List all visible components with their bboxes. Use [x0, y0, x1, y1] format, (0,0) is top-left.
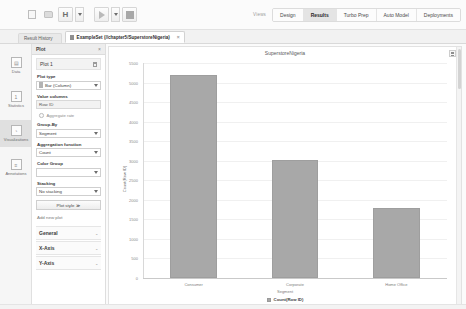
group-by-select[interactable]: Segment: [36, 129, 101, 138]
view-rail: ▤ Data 1 Statistics ◔ Visualizations ≡ A…: [0, 44, 32, 309]
status-bar: [0, 304, 466, 309]
chevron-double-right-icon: ≫: [76, 203, 80, 208]
stacking-label: Stacking: [37, 181, 101, 186]
aggregation-function-select[interactable]: Count: [36, 148, 101, 157]
y-axis-tick-label: 4000: [109, 119, 140, 124]
plot-name-label: Plot 1: [40, 61, 53, 67]
aggregation-function-value: Count: [39, 150, 51, 155]
dataset-icon: [70, 35, 74, 40]
save-icon[interactable]: H: [58, 7, 73, 22]
tab-auto-model[interactable]: Auto Model: [377, 9, 417, 21]
plot-panel-title: Plot: [36, 46, 45, 52]
exampleset-tab[interactable]: ExampleSet (//chapter5/SuperstoreNigeria…: [65, 31, 185, 43]
section-y-axis[interactable]: Y-Axis ⌄: [36, 256, 101, 270]
bar-consumer[interactable]: [170, 75, 217, 278]
bar-corporate[interactable]: [272, 160, 319, 278]
chart-icon: ◔: [11, 125, 22, 136]
run-dropdown-icon[interactable]: [111, 7, 120, 22]
chevron-down-icon: [94, 84, 98, 87]
legend-swatch: [267, 298, 271, 302]
group-by-value: Segment: [39, 131, 57, 136]
tab-design[interactable]: Design: [273, 9, 304, 21]
add-new-plot-link[interactable]: Add new plot: [37, 215, 101, 220]
plot-type-select[interactable]: Bar (Column): [36, 81, 101, 90]
table-icon: ▤: [11, 57, 22, 68]
views-switcher: Views Design Results Turbo Prep Auto Mod…: [253, 8, 466, 22]
aggregate-rate-checkbox[interactable]: Aggregate rate: [39, 113, 101, 118]
y-axis-tick-label: 4500: [109, 100, 140, 105]
sidebar-item-label: Annotations: [5, 172, 26, 176]
plot-type-value: Bar (Column): [45, 83, 71, 88]
view-tab-list: Design Results Turbo Prep Auto Model Dep…: [272, 8, 461, 22]
plot-panel-body: Plot 1 Plot type Bar (Column) Value colu…: [32, 55, 105, 309]
value-columns-field[interactable]: Row ID: [36, 100, 101, 109]
close-icon[interactable]: ×: [177, 34, 180, 40]
y-axis-tick-label: 1000: [109, 236, 140, 241]
chevron-down-icon: [94, 190, 98, 193]
y-axis-tick-label: 0: [109, 276, 140, 281]
delete-plot-icon[interactable]: [93, 62, 97, 67]
x-axis-tick-label: Corporate: [286, 282, 304, 287]
chevron-down-icon: ⌄: [95, 246, 98, 251]
plot-area: 0500100015002000250030003500400045005000…: [109, 47, 461, 309]
tab-results[interactable]: Results: [304, 9, 337, 21]
x-axis-label: Segment: [109, 289, 461, 294]
checkbox-icon: [39, 113, 44, 118]
stacking-select[interactable]: No stacking: [36, 187, 101, 196]
sidebar-item-label: Data: [12, 70, 20, 74]
y-axis-tick-label: 2000: [109, 197, 140, 202]
chart-legend: Count(Row ID): [109, 297, 461, 302]
plot-style-label: Plot style: [57, 203, 75, 208]
stop-process-icon[interactable]: [122, 7, 137, 22]
chevron-down-icon: ⌄: [95, 261, 98, 266]
y-axis-tick-label: 500: [109, 256, 140, 261]
legend-label: Count(Row ID): [274, 297, 304, 302]
sidebar-item-label: Statistics: [8, 104, 24, 108]
result-history-tab[interactable]: Result History: [18, 33, 62, 43]
aggregation-function-label: Aggregation function: [37, 142, 101, 147]
y-axis-tick-label: 3000: [109, 158, 140, 163]
run-process-icon[interactable]: [94, 7, 109, 22]
chevron-down-icon: ⌄: [95, 231, 98, 236]
statistics-icon: 1: [11, 91, 22, 102]
y-axis-tick-label: 3500: [109, 139, 140, 144]
document-tab-bar: Result History ExampleSet (//chapter5/Su…: [0, 30, 466, 44]
open-folder-icon[interactable]: [41, 7, 56, 22]
bar-home-office[interactable]: [373, 208, 420, 278]
sidebar-item-visualizations[interactable]: ◔ Visualizations: [0, 120, 32, 147]
scrollbar-thumb[interactable]: [458, 49, 461, 89]
toolbar-icon-group: H: [24, 7, 137, 22]
group-by-label: Group-By: [37, 122, 101, 127]
chevron-down-icon: [94, 132, 98, 135]
views-label: Views: [253, 12, 266, 17]
plot-style-button[interactable]: Plot style ≫: [36, 200, 101, 210]
y-axis-line: [143, 63, 144, 278]
section-general[interactable]: General ⌄: [36, 226, 101, 240]
exampleset-tab-label: ExampleSet (//chapter5/SuperstoreNigeria…: [77, 35, 170, 40]
section-label: Y-Axis: [39, 260, 54, 266]
application-window: H Views Design Results Turbo Prep Auto M…: [0, 0, 466, 309]
main-toolbar: H Views Design Results Turbo Prep Auto M…: [0, 0, 466, 30]
x-axis-tick-label: Consumer: [184, 282, 202, 287]
grid-line: [143, 63, 447, 64]
color-group-select[interactable]: [36, 168, 101, 177]
annotations-icon: ≡: [11, 159, 22, 170]
tab-turbo-prep[interactable]: Turbo Prep: [337, 9, 377, 21]
sidebar-item-data[interactable]: ▤ Data: [0, 52, 32, 79]
stacking-value: No stacking: [39, 189, 62, 194]
close-icon[interactable]: ×: [98, 46, 101, 52]
tab-deployments[interactable]: Deployments: [417, 9, 460, 21]
chevron-down-icon: [94, 151, 98, 154]
chart-scrollbar[interactable]: [456, 47, 461, 309]
save-dropdown-icon[interactable]: [75, 7, 84, 22]
chevron-down-icon: [94, 171, 98, 174]
sidebar-item-statistics[interactable]: 1 Statistics: [0, 86, 32, 113]
section-x-axis[interactable]: X-Axis ⌄: [36, 241, 101, 255]
new-document-icon[interactable]: [24, 7, 39, 22]
y-axis-tick-label: 5000: [109, 80, 140, 85]
sidebar-item-label: Visualizations: [4, 138, 28, 142]
y-axis-tick-label: 5500: [109, 61, 140, 66]
plot-name-row[interactable]: Plot 1: [36, 58, 101, 70]
y-axis-tick-label: 1500: [109, 217, 140, 222]
sidebar-item-annotations[interactable]: ≡ Annotations: [0, 154, 32, 181]
